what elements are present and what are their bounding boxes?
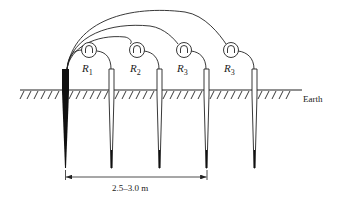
meter-label-r1: R1 [81,62,93,77]
main-electrode [62,69,69,168]
dimension-marker [66,170,208,180]
meter-r1 [82,43,97,58]
meter-label-r3a: R3 [176,62,188,77]
meter-r2 [130,43,145,58]
earth-resistance-diagram: Earth [0,0,337,198]
meter-r3a [177,43,192,58]
meter-label-r3b: R3 [223,62,235,77]
meter-label-r2: R2 [129,62,141,77]
meter-r3b [224,43,239,58]
test-electrodes [109,69,257,168]
test-leads [67,10,254,69]
earth-label: Earth [303,94,323,104]
dimension-label: 2.5–3.0 m [112,183,148,193]
